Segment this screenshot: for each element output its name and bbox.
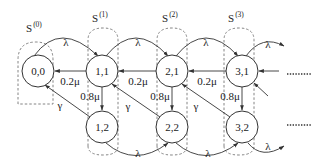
- edge-label: 0.8μ: [80, 90, 100, 102]
- edge-label: γ: [125, 100, 131, 112]
- edge-label: λ: [205, 147, 211, 159]
- node-label: 1,2: [95, 121, 109, 133]
- node-1-2: 1,2: [86, 111, 118, 143]
- edge-label: λ: [203, 36, 209, 48]
- markov-chain-diagram: S(0) S(1) S(2) S(3) λ λ λ λ 0.2μ 0.2μ 0.…: [0, 0, 321, 166]
- edge-label: λ: [135, 147, 141, 159]
- node-2-1: 2,1: [156, 55, 188, 87]
- node-3-2: 3,2: [226, 111, 258, 143]
- group-label: S(0): [26, 20, 42, 34]
- edge-label: λ: [265, 38, 271, 50]
- edge-label: λ: [135, 36, 141, 48]
- edge-label: 0.8μ: [150, 90, 170, 102]
- group-label: S(3): [228, 10, 244, 24]
- node-label: 1,1: [95, 65, 109, 77]
- node-0-0: 0,0: [22, 55, 54, 87]
- edge-label: 0.2μ: [197, 75, 217, 87]
- node-label: 3,2: [235, 121, 249, 133]
- node-2-2: 2,2: [156, 111, 188, 143]
- node-3-1: 3,1: [226, 55, 258, 87]
- edge-label: γ: [193, 100, 199, 112]
- edge-gamma-incoming-31: [254, 83, 268, 96]
- node-1-1: 1,1: [86, 55, 118, 87]
- edge-label: λ: [265, 140, 271, 152]
- group-label: S(1): [92, 10, 108, 24]
- edge-label: 0.2μ: [60, 75, 80, 87]
- edge-label: 0.2μ: [128, 75, 148, 87]
- node-label: 3,1: [235, 65, 249, 77]
- node-label: 2,2: [165, 121, 179, 133]
- node-label: 0,0: [31, 65, 45, 77]
- node-label: 2,1: [165, 65, 179, 77]
- edge-label: γ: [57, 99, 63, 111]
- group-label: S(2): [162, 10, 178, 24]
- edge-label: λ: [63, 36, 69, 48]
- edge-label: 0.8μ: [220, 90, 240, 102]
